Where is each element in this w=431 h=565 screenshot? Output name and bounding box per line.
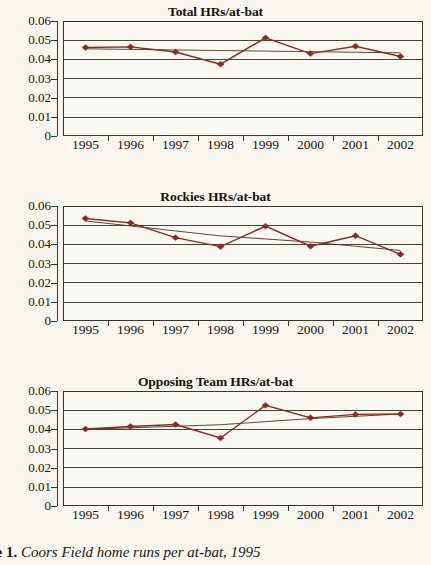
x-axis-tick-mark <box>378 136 379 141</box>
x-axis-tick-mark <box>288 506 289 511</box>
x-axis-tick-label: 2001 <box>342 507 369 523</box>
x-axis-tick-label: 1996 <box>117 322 144 338</box>
x-axis-tick-label: 2000 <box>297 322 324 338</box>
y-axis-tick-label: 0.06 <box>28 198 51 214</box>
chart-title-rockies: Rockies HRs/at-bat <box>0 185 431 206</box>
data-series-path <box>86 405 401 438</box>
x-axis-tick-mark <box>198 506 199 511</box>
x-axis-tick-mark <box>288 136 289 141</box>
x-axis-tick-label: 1999 <box>252 322 279 338</box>
x-axis-tick-label: 1995 <box>72 507 99 523</box>
y-axis-tick-mark <box>51 136 57 137</box>
x-axis-tick-label: 1997 <box>162 322 189 338</box>
x-axis-opposing: 19951996199719981999200020012002 <box>63 506 423 528</box>
y-axis-tick-label: 0.04 <box>28 51 51 67</box>
y-axis-tick-label: 0.03 <box>28 71 51 87</box>
data-point-marker <box>82 215 89 221</box>
data-point-marker <box>127 220 134 226</box>
x-axis-tick-mark <box>198 321 199 326</box>
x-axis-tick-label: 2000 <box>297 137 324 153</box>
chart-title-opposing: Opposing Team HRs/at-bat <box>0 370 431 391</box>
y-axis-tick-label: 0.02 <box>28 275 51 291</box>
y-axis-tick-label: 0.06 <box>28 13 51 29</box>
x-axis-tick-label: 1996 <box>117 507 144 523</box>
figure-caption-number: Figure 1. <box>0 545 17 560</box>
data-point-marker <box>397 53 404 59</box>
data-point-marker <box>172 235 179 241</box>
x-axis-tick-label: 2002 <box>387 507 414 523</box>
x-axis-tick-mark <box>153 321 154 326</box>
y-axis-tick-label: 0.01 <box>28 479 51 495</box>
x-axis-tick-mark <box>333 321 334 326</box>
chart-block-opposing: Opposing Team HRs/at-bat 0.060.050.040.0… <box>0 370 431 555</box>
x-axis-tick-label: 1998 <box>207 137 234 153</box>
y-axis-tick-label: 0.04 <box>28 421 51 437</box>
data-point-marker <box>82 44 89 50</box>
data-point-marker <box>262 223 269 229</box>
x-axis-tick-mark <box>243 321 244 326</box>
data-point-marker <box>307 243 314 249</box>
data-point-marker <box>82 426 89 432</box>
x-axis-tick-label: 2002 <box>387 137 414 153</box>
chart-block-total: Total HRs/at-bat 0.060.050.040.030.020.0… <box>0 0 431 185</box>
x-axis-tick-label: 1999 <box>252 137 279 153</box>
data-point-marker <box>217 244 224 250</box>
y-axis-tick-label: 0.03 <box>28 256 51 272</box>
x-axis-tick-mark <box>153 506 154 511</box>
x-axis-tick-label: 1997 <box>162 507 189 523</box>
series-canvas-rockies <box>63 206 423 321</box>
y-axis-line-total <box>57 21 58 136</box>
x-axis-tick-label: 1997 <box>162 137 189 153</box>
y-axis-tick-label: 0.02 <box>28 90 51 106</box>
y-axis-tick-label: 0.05 <box>28 32 51 48</box>
y-axis-tick-label: 0.01 <box>28 109 51 125</box>
figure-caption-inner: Figure 1. Coors Field home runs per at-b… <box>0 545 261 561</box>
y-axis-total: 0.060.050.040.030.020.010 <box>0 21 57 136</box>
y-axis-tick-label: 0.02 <box>28 460 51 476</box>
plot-wrap-rockies <box>63 206 423 321</box>
x-axis-tick-mark <box>108 506 109 511</box>
x-axis-tick-mark <box>378 321 379 326</box>
figure-coors-field-home-runs: Total HRs/at-bat 0.060.050.040.030.020.0… <box>0 0 431 565</box>
y-axis-tick-label: 0.04 <box>28 236 51 252</box>
y-axis-opposing: 0.060.050.040.030.020.010 <box>0 391 57 506</box>
y-axis-tick-label: 0.01 <box>28 294 51 310</box>
x-axis-tick-label: 1998 <box>207 322 234 338</box>
x-axis-tick-mark <box>378 506 379 511</box>
x-axis-tick-mark <box>108 136 109 141</box>
x-axis-tick-label: 1995 <box>72 322 99 338</box>
series-canvas-opposing <box>63 391 423 506</box>
plot-wrap-opposing <box>63 391 423 506</box>
data-point-marker <box>307 415 314 421</box>
chart-block-rockies: Rockies HRs/at-bat 0.060.050.040.030.020… <box>0 185 431 370</box>
y-axis-tick-mark <box>51 506 57 507</box>
x-axis-tick-mark <box>198 136 199 141</box>
figure-caption-text: Coors Field home runs per at-bat, 1995 <box>21 545 261 560</box>
y-axis-tick-label: 0.05 <box>28 217 51 233</box>
x-axis-tick-mark <box>243 506 244 511</box>
x-axis-tick-label: 2000 <box>297 507 324 523</box>
x-axis-tick-mark <box>333 506 334 511</box>
x-axis-tick-mark <box>333 136 334 141</box>
x-axis-tick-label: 1999 <box>252 507 279 523</box>
y-axis-line-rockies <box>57 206 58 321</box>
x-axis-tick-mark <box>288 321 289 326</box>
y-axis-tick-label: 0.05 <box>28 402 51 418</box>
y-axis-line-opposing <box>57 391 58 506</box>
x-axis-tick-mark <box>108 321 109 326</box>
y-axis-tick-mark <box>51 321 57 322</box>
x-axis-total: 19951996199719981999200020012002 <box>63 136 423 158</box>
plot-wrap-total <box>63 21 423 136</box>
data-point-marker <box>352 233 359 239</box>
x-axis-tick-mark <box>153 136 154 141</box>
x-axis-tick-label: 1995 <box>72 137 99 153</box>
figure-caption: Figure 1. Coors Field home runs per at-b… <box>0 545 431 565</box>
y-axis-rockies: 0.060.050.040.030.020.010 <box>0 206 57 321</box>
y-axis-tick-label: 0.03 <box>28 441 51 457</box>
x-axis-tick-label: 2001 <box>342 137 369 153</box>
x-axis-tick-label: 1996 <box>117 137 144 153</box>
data-point-marker <box>352 43 359 49</box>
x-axis-tick-label: 2001 <box>342 322 369 338</box>
chart-title-total: Total HRs/at-bat <box>0 0 431 21</box>
y-axis-tick-label: 0.06 <box>28 383 51 399</box>
